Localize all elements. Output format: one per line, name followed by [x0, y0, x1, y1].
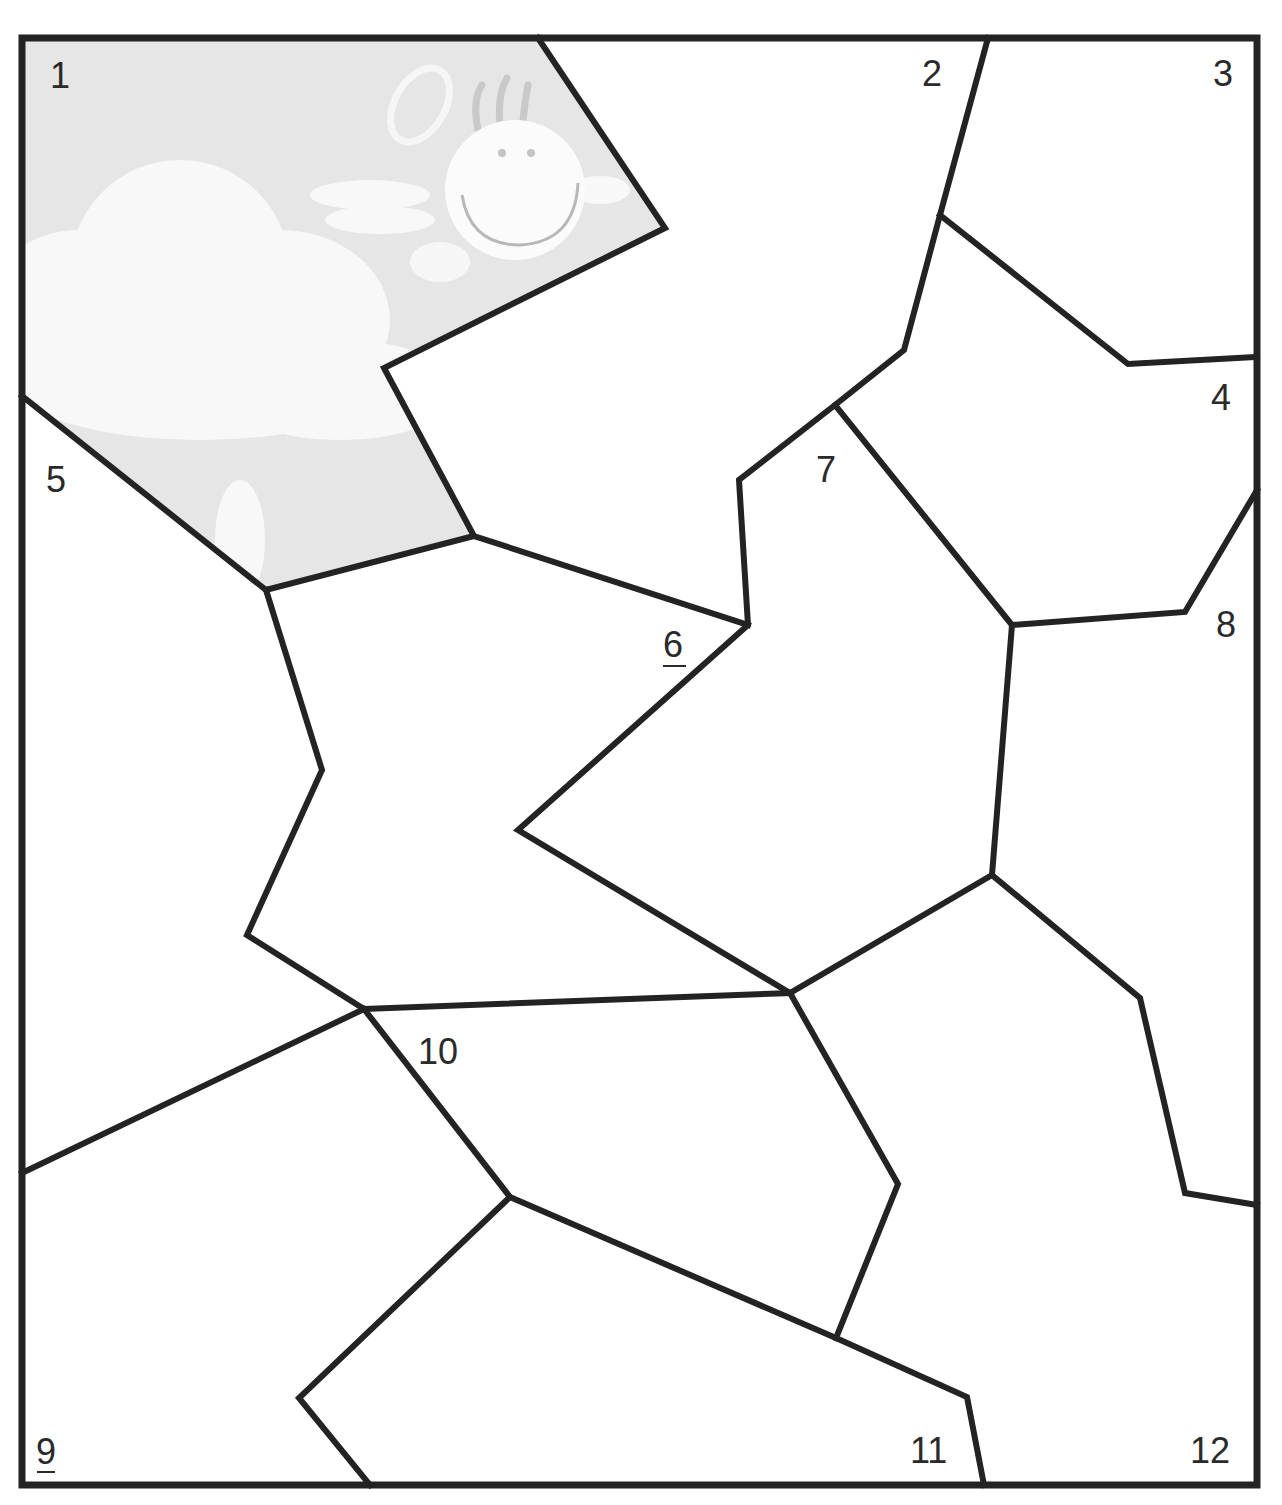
- piece-1-revealed-image: [0, 0, 700, 620]
- piece-label-9: 9: [36, 1431, 56, 1472]
- puzzle-diagram: 1 2 3 4 5 6 7 8 9 10 11 12: [0, 0, 1282, 1505]
- piece-label-6: 6: [663, 624, 683, 665]
- piece-label-10: 10: [418, 1031, 458, 1072]
- piece-label-1: 1: [50, 55, 70, 96]
- piece-label-2: 2: [922, 53, 942, 94]
- piece-label-5: 5: [46, 459, 66, 500]
- piece-label-7: 7: [816, 449, 836, 490]
- piece-label-11: 11: [910, 1430, 947, 1471]
- piece-label-3: 3: [1213, 53, 1233, 94]
- piece-label-12: 12: [1190, 1430, 1230, 1471]
- piece-label-4: 4: [1211, 377, 1231, 418]
- piece-label-8: 8: [1216, 604, 1236, 645]
